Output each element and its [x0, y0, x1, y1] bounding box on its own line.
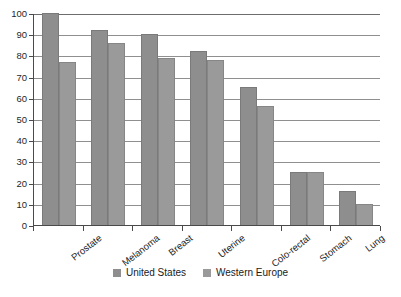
legend-swatch-united-states-icon [113, 269, 121, 277]
bar-groups [34, 14, 380, 225]
bar [290, 172, 307, 225]
bar [91, 30, 108, 225]
x-tick-mark [33, 226, 34, 231]
x-axis-label: Melanoma [121, 233, 162, 268]
x-tick-mark [132, 226, 133, 231]
bar [207, 60, 224, 225]
x-tick-mark [380, 226, 381, 231]
x-tick-mark [182, 226, 183, 231]
bar [141, 34, 158, 225]
y-tick-label: 20 [3, 179, 27, 189]
bar [307, 172, 324, 225]
x-axis-label: Stomach [318, 233, 353, 264]
bar-group [282, 14, 332, 225]
bar-group [232, 14, 282, 225]
x-tick-mark [330, 226, 331, 231]
bar [190, 51, 207, 225]
y-tick-label: 40 [3, 136, 27, 146]
legend: United StatesWestern Europe [0, 268, 401, 278]
bar [108, 43, 125, 225]
y-tick-label: 90 [3, 30, 27, 40]
bar [59, 62, 76, 225]
y-tick-label: 70 [3, 73, 27, 83]
x-axis-label: Lung [364, 233, 387, 254]
bar-chart: 1009080706050403020100 ProstateMelanomaB… [0, 0, 401, 297]
legend-label: United States [126, 268, 186, 278]
bar-group [84, 14, 134, 225]
plot-area [33, 14, 380, 226]
x-tick-mark [83, 226, 84, 231]
bar-group [331, 14, 381, 225]
y-tick-label: 0 [3, 221, 27, 231]
bar [42, 13, 59, 225]
legend-swatch-western-europe-icon [203, 269, 211, 277]
y-tick-label: 80 [3, 51, 27, 61]
y-tick-label: 60 [3, 94, 27, 104]
bar [339, 191, 356, 225]
x-axis-label: Breast [167, 233, 194, 257]
legend-item: Western Europe [203, 268, 288, 278]
y-tick-label: 10 [3, 200, 27, 210]
y-tick-label: 30 [3, 157, 27, 167]
y-tick-label: 50 [3, 115, 27, 125]
bar [257, 106, 274, 225]
bar [158, 58, 175, 225]
x-axis-label: Prostate [69, 233, 103, 262]
y-tick-label: 100 [3, 9, 27, 19]
x-axis-label: Uterine [217, 233, 247, 259]
bar [240, 87, 257, 225]
legend-item: United States [113, 268, 186, 278]
x-tick-mark [281, 226, 282, 231]
x-tick-mark [231, 226, 232, 231]
bar-group [133, 14, 183, 225]
legend-label: Western Europe [216, 268, 288, 278]
x-axis-label: Colo-rectal [270, 233, 312, 269]
bar [356, 204, 373, 225]
bar-group [34, 14, 84, 225]
bar-group [183, 14, 233, 225]
